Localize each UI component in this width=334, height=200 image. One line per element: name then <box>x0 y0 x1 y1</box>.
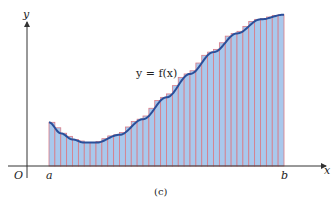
riemann-rectangle <box>278 15 284 166</box>
origin-label: O <box>14 169 23 182</box>
riemann-rectangle <box>219 43 225 166</box>
riemann-rectangle <box>243 26 249 166</box>
riemann-rectangle <box>196 63 202 166</box>
riemann-rectangle <box>78 141 84 166</box>
riemann-rectangle <box>237 31 243 166</box>
riemann-rectangle <box>167 94 173 166</box>
figure-caption: (c) <box>154 186 168 197</box>
riemann-rectangle <box>202 55 208 166</box>
riemann-rectangle <box>137 119 143 166</box>
riemann-rectangle <box>231 33 237 166</box>
riemann-rectangle <box>214 49 220 166</box>
riemann-rectangle <box>172 86 178 166</box>
riemann-rectangle <box>49 122 55 166</box>
curve-label: y = f(x) <box>135 67 177 80</box>
riemann-rectangle <box>184 74 190 166</box>
riemann-rectangle <box>161 97 167 166</box>
riemann-rectangle <box>149 108 155 166</box>
riemann-rectangle <box>208 52 214 166</box>
riemann-rectangle <box>255 19 261 166</box>
riemann-sum-figure: y x O a b y = f(x) (c) <box>0 0 334 200</box>
riemann-rectangle <box>190 71 196 166</box>
riemann-rectangle <box>90 143 96 166</box>
riemann-rectangle <box>96 141 102 166</box>
riemann-rectangle <box>67 136 73 166</box>
riemann-rectangle <box>266 17 272 166</box>
x-axis-label: x <box>324 164 331 177</box>
y-axis-label: y <box>22 8 30 21</box>
riemann-rectangle <box>84 143 90 166</box>
riemann-rectangle <box>272 15 278 166</box>
riemann-rectangle <box>249 21 255 166</box>
riemann-rectangle <box>114 135 120 166</box>
a-label: a <box>46 169 53 182</box>
riemann-rectangle <box>261 19 267 166</box>
riemann-rectangle <box>131 121 137 166</box>
riemann-rectangle <box>73 139 79 166</box>
riemann-rectangle <box>143 116 149 166</box>
riemann-rectangle <box>225 36 231 166</box>
riemann-rectangle <box>178 77 184 166</box>
riemann-rectangle <box>102 139 108 166</box>
riemann-rectangle <box>61 133 67 166</box>
b-label: b <box>281 169 288 182</box>
riemann-rectangle <box>155 101 161 166</box>
riemann-rectangle <box>120 133 126 166</box>
riemann-rectangle <box>108 136 114 166</box>
